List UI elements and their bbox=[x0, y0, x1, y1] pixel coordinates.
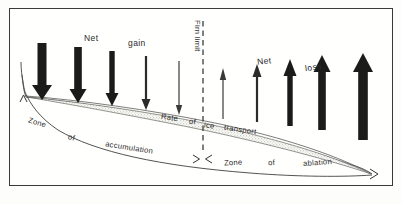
label-net-gain-net: Net bbox=[84, 33, 98, 43]
down-arrow-5 bbox=[176, 61, 182, 115]
marker-center-firn bbox=[193, 155, 212, 163]
glacier-mass-balance-figure: Net gain Net loss Firn limit Rate of ice… bbox=[0, 0, 402, 204]
glacier-headwall bbox=[21, 62, 25, 92]
down-arrow-3 bbox=[106, 51, 119, 106]
up-arrow-1 bbox=[220, 68, 226, 119]
up-arrow-3 bbox=[284, 59, 297, 126]
up-arrow-2 bbox=[253, 64, 262, 122]
label-net-loss-net: Net bbox=[256, 55, 272, 67]
label-firn-limit: Firn limit bbox=[193, 20, 202, 52]
label-net-gain-gain: gain bbox=[128, 38, 146, 48]
label-rate-word-3: ice bbox=[203, 120, 215, 130]
label-rate-word-2: of bbox=[188, 117, 196, 127]
down-arrow-4 bbox=[142, 56, 151, 110]
up-arrow-5 bbox=[353, 53, 373, 140]
down-arrow-1 bbox=[32, 43, 52, 100]
label-zone-ablation-1: Zone bbox=[224, 158, 243, 168]
label-zone-ablation-2: of bbox=[268, 158, 275, 167]
down-arrow-2 bbox=[70, 47, 87, 103]
